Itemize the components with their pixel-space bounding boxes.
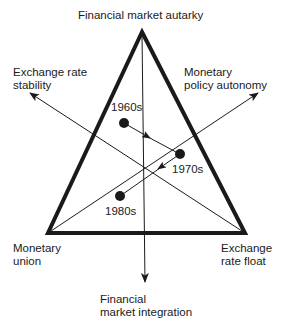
axis-label-upper-left: Exchange rate stability: [13, 66, 87, 92]
axis-label-upper-right: Monetary policy autonomy: [184, 66, 267, 92]
vertex-label-top-text: Financial market autarky: [78, 9, 203, 21]
path-1970s-to-1980s-tail: [123, 168, 160, 194]
trilemma-diagram: [0, 0, 290, 325]
axis-label-bottom: Financial market integration: [100, 293, 192, 319]
path-1960s-to-1970s-tail: [148, 137, 176, 152]
axis-label-bottom-line2: market integration: [100, 306, 192, 319]
axis-exchange-rate-stability: [30, 93, 245, 233]
axis-label-bottom-line1: Financial: [100, 293, 192, 306]
vertex-label-top: Financial market autarky: [78, 9, 203, 22]
axis-financial-integration: [142, 34, 145, 282]
axis-label-upper-left-line2: stability: [13, 79, 87, 92]
vertex-label-bottom-right: Exchange rate float: [221, 242, 272, 268]
point-1970s-label: 1970s: [172, 163, 203, 176]
point-1960s-label: 1960s: [111, 101, 142, 114]
axis-label-upper-right-line2: policy autonomy: [184, 79, 267, 92]
axis-label-upper-left-line1: Exchange rate: [13, 66, 87, 79]
vertex-label-bottom-left-line1: Monetary: [13, 242, 61, 255]
point-1970s-dot: [175, 149, 185, 159]
trilemma-triangle: [48, 32, 245, 233]
vertex-label-bottom-right-line1: Exchange: [221, 242, 272, 255]
point-1980s-dot: [115, 191, 125, 201]
vertex-label-bottom-left: Monetary union: [13, 242, 61, 268]
point-1980s-label: 1980s: [105, 205, 136, 218]
axis-label-upper-right-line1: Monetary: [184, 66, 267, 79]
vertex-label-bottom-left-line2: union: [13, 255, 61, 268]
vertex-label-bottom-right-line2: rate float: [221, 255, 272, 268]
point-1960s-dot: [119, 118, 129, 128]
